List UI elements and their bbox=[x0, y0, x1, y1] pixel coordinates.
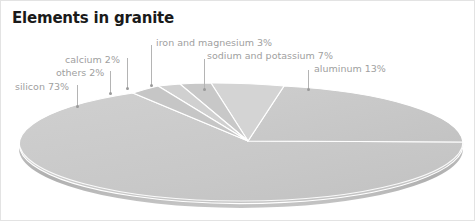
leader-line-calcium bbox=[127, 58, 128, 88]
callout-silicon: silicon 73% bbox=[15, 81, 69, 92]
leader-dot-iron-magnesium bbox=[150, 84, 153, 87]
leader-line-silicon bbox=[77, 85, 78, 106]
leader-dot-calcium bbox=[126, 87, 129, 90]
leader-dot-aluminum bbox=[307, 88, 310, 91]
callout-aluminum: aluminum 13% bbox=[314, 63, 386, 74]
leader-line-sodium-potassium bbox=[204, 59, 205, 89]
leader-dot-sodium-potassium bbox=[203, 88, 206, 91]
callout-sodium-potassium: sodium and potassium 7% bbox=[207, 50, 333, 61]
leader-line-aluminum bbox=[308, 70, 309, 89]
pie-chart-figure: Elements in granite bbox=[0, 0, 475, 221]
leader-dot-silicon bbox=[76, 105, 79, 108]
leader-line-iron-magnesium bbox=[151, 45, 152, 85]
leader-dot-others bbox=[109, 92, 112, 95]
callout-others: others 2% bbox=[56, 67, 104, 78]
leader-line-others bbox=[110, 71, 111, 93]
pie-chart-graphic bbox=[1, 1, 475, 221]
callout-calcium: calcium 2% bbox=[65, 54, 120, 65]
pie-slice-aluminum[interactable] bbox=[248, 86, 463, 142]
callout-iron-magnesium: iron and magnesium 3% bbox=[156, 37, 272, 48]
